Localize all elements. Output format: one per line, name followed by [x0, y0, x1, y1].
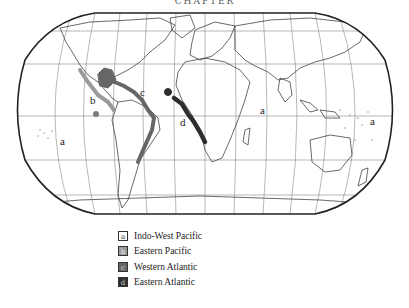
legend: a Indo-West Pacific b Eastern Pacific c …	[118, 228, 202, 290]
legend-swatch: c	[118, 262, 128, 272]
map-label-a-pacific: a	[370, 115, 375, 127]
region-western-atlantic	[98, 68, 154, 162]
map-label-a-indian: a	[260, 104, 265, 116]
legend-swatch: a	[118, 231, 128, 241]
legend-label: Western Atlantic	[134, 262, 197, 272]
legend-item-indo-west-pacific: a Indo-West Pacific	[118, 228, 202, 244]
legend-item-eastern-pacific: b Eastern Pacific	[118, 244, 202, 260]
graticule	[0, 13, 409, 214]
world-map: a b c d a a	[0, 0, 409, 225]
map-label-d: d	[180, 116, 186, 128]
legend-item-eastern-atlantic: d Eastern Atlantic	[118, 275, 202, 291]
map-label-c: c	[140, 86, 145, 98]
legend-label: Indo-West Pacific	[134, 231, 202, 241]
legend-swatch: d	[118, 277, 128, 287]
legend-label: Eastern Atlantic	[134, 277, 195, 287]
map-label-b: b	[90, 94, 96, 106]
legend-label: Eastern Pacific	[134, 246, 191, 256]
legend-item-western-atlantic: c Western Atlantic	[118, 259, 202, 275]
map-label-a-west: a	[60, 135, 65, 147]
legend-swatch: b	[118, 246, 128, 256]
